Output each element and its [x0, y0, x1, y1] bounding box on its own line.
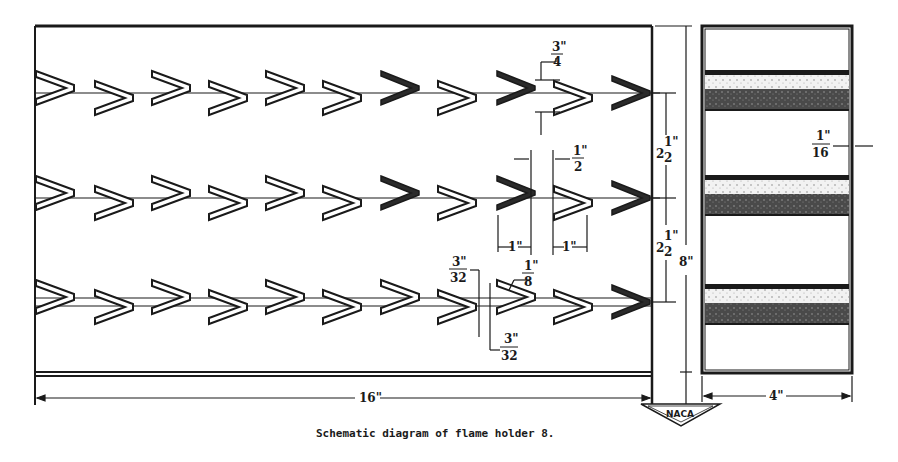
spacing-upper-den: 2 [664, 151, 672, 165]
dim-row3-bot-den: 32 [501, 349, 518, 363]
height-dimensions [652, 26, 692, 405]
band-2 [705, 175, 849, 216]
dim-row1-den: 4 [553, 55, 561, 69]
spacing-lower-den: 2 [664, 245, 672, 259]
dim-chevron-b: 1" [562, 240, 577, 254]
dim-row3-top-num: 3" [452, 255, 467, 269]
spacing-upper-num: 1" [664, 135, 679, 149]
dim-chevron-a: 1" [508, 240, 523, 254]
dim-row2-num: 1" [573, 144, 588, 158]
dim-row3-strip-den: 8 [524, 275, 532, 289]
dim-row3-top-den: 32 [450, 271, 467, 285]
width-4-label: 4" [769, 389, 784, 403]
dim-row3-bot-num: 3" [504, 332, 519, 346]
thickness-den: 16 [812, 146, 829, 160]
spacing-lower-num: 1" [664, 229, 679, 243]
flame-holder-diagram: 3" 4 1" 2 1" 1" 3" [0, 0, 898, 462]
dim-row1-num: 3" [552, 40, 567, 54]
dim-row1-gap [535, 58, 560, 135]
dim-row2-den: 2 [574, 160, 582, 174]
row-3-chevrons [36, 280, 650, 324]
figure-caption: Schematic diagram of flame holder 8. [316, 427, 554, 440]
thickness-num: 1" [816, 129, 831, 143]
width-16-label: 16" [359, 391, 382, 405]
front-view: 3" 4 1" 2 1" 1" 3" [35, 26, 660, 405]
naca-logo-text: NACA [666, 409, 694, 419]
band-3 [705, 284, 849, 325]
dim-width-16 [37, 395, 650, 401]
dim-row3-strip-num: 1" [524, 259, 539, 273]
naca-logo: NACA [641, 404, 720, 426]
band-1 [705, 70, 849, 111]
total-height-label: 8" [679, 255, 694, 269]
side-view: 1" 16 4" [702, 26, 873, 403]
